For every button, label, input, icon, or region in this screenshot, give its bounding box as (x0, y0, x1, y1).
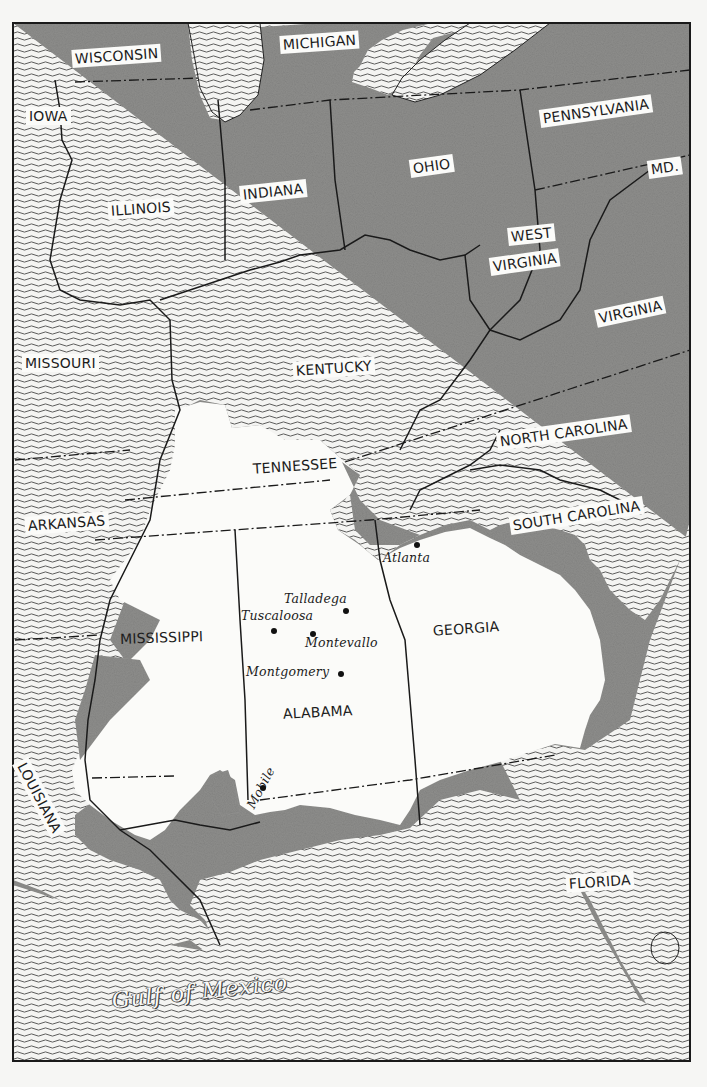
city-dot-talladega (343, 608, 349, 614)
city-dot-montgomery (338, 671, 344, 677)
city-dot-mobile (260, 785, 266, 791)
label-city-montgomery: Montgomery (246, 664, 329, 679)
label-city-talladega: Talladega (284, 591, 347, 606)
map-canvas (0, 0, 707, 1087)
label-iowa: IOWA (26, 107, 71, 125)
label-mississippi: MISSISSIPPI (117, 627, 207, 648)
city-dot-atlanta (414, 542, 420, 548)
label-missouri: MISSOURI (22, 354, 99, 372)
city-dot-tuscaloosa (271, 628, 277, 634)
label-city-montevallo: Montevallo (305, 635, 378, 650)
label-city-atlanta: Atlanta (383, 550, 430, 565)
label-city-tuscaloosa: Tuscaloosa (241, 608, 313, 623)
